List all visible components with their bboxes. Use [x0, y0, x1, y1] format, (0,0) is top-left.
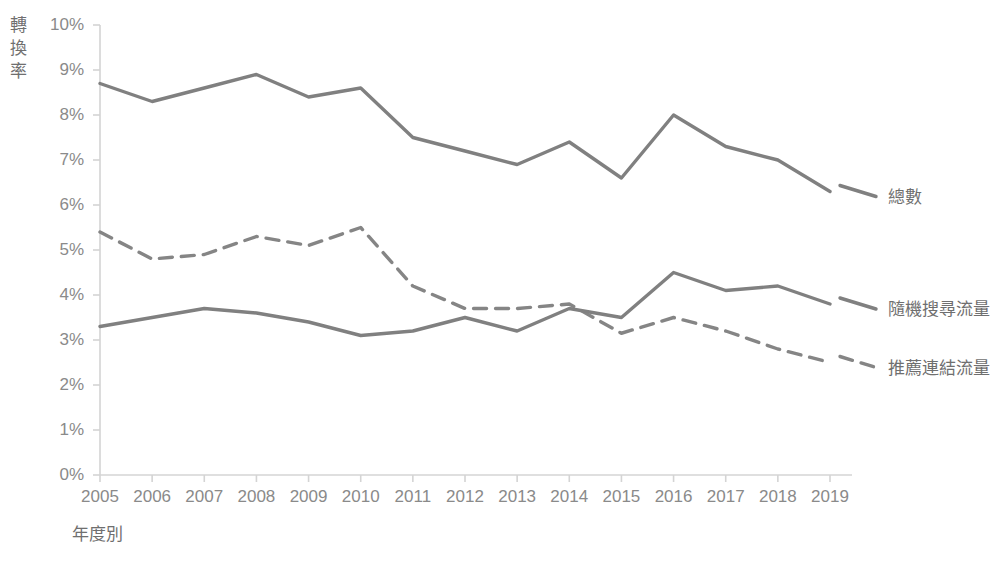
x-axis-tick-marks — [100, 475, 830, 482]
legend-label-0: 總數 — [888, 182, 922, 207]
series-line-1 — [100, 228, 830, 363]
legend-swatches — [840, 186, 876, 368]
x-tick-label-2006: 2006 — [133, 487, 171, 507]
x-tick-label-2016: 2016 — [655, 487, 693, 507]
y-tick-label-1pct: 1% — [32, 420, 84, 440]
series-lines — [100, 75, 830, 363]
y-tick-label-4pct: 4% — [32, 285, 84, 305]
y-tick-label-7pct: 7% — [32, 150, 84, 170]
x-tick-label-2007: 2007 — [185, 487, 223, 507]
y-tick-label-8pct: 8% — [32, 105, 84, 125]
y-tick-label-10pct: 10% — [32, 15, 84, 35]
series-line-0 — [100, 75, 830, 192]
x-tick-label-2018: 2018 — [759, 487, 797, 507]
legend-label-2: 推薦連結流量 — [888, 353, 990, 378]
y-tick-label-9pct: 9% — [32, 60, 84, 80]
x-tick-label-2010: 2010 — [342, 487, 380, 507]
y-tick-label-3pct: 3% — [32, 330, 84, 350]
x-tick-label-2009: 2009 — [290, 487, 328, 507]
x-tick-label-2014: 2014 — [550, 487, 588, 507]
series-line-2 — [100, 273, 830, 336]
legend-swatch-0 — [840, 186, 876, 197]
y-tick-label-2pct: 2% — [32, 375, 84, 395]
x-tick-label-2019: 2019 — [811, 487, 849, 507]
y-tick-label-5pct: 5% — [32, 240, 84, 260]
y-tick-label-6pct: 6% — [32, 195, 84, 215]
y-tick-label-0pct: 0% — [32, 465, 84, 485]
x-tick-label-2013: 2013 — [498, 487, 536, 507]
x-tick-label-2015: 2015 — [603, 487, 641, 507]
legend-label-1: 隨機搜尋流量 — [888, 295, 990, 320]
x-tick-label-2017: 2017 — [707, 487, 745, 507]
legend-swatch-2 — [840, 357, 876, 368]
y-axis-tick-marks — [93, 25, 100, 475]
x-tick-label-2012: 2012 — [446, 487, 484, 507]
legend-swatch-1 — [840, 298, 876, 309]
x-tick-label-2011: 2011 — [395, 487, 432, 507]
x-tick-label-2005: 2005 — [81, 487, 119, 507]
x-tick-label-2008: 2008 — [238, 487, 276, 507]
